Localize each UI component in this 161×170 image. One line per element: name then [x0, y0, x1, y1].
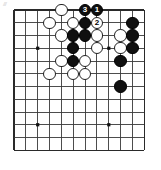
star-point: [36, 47, 39, 50]
go-board-grid: [0, 0, 161, 170]
go-board[interactable]: 312: [0, 0, 161, 170]
go-diagram-figure: /// 312: [0, 0, 161, 170]
star-point: [107, 123, 110, 126]
star-point: [36, 123, 39, 126]
star-point: [107, 47, 110, 50]
